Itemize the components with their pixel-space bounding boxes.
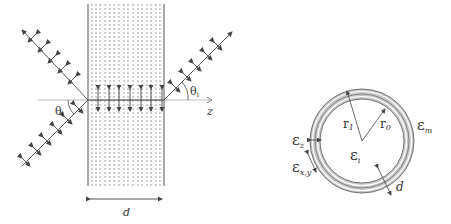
diagram-canvas: θi θi z d r1 r0 εi (0, 0, 451, 224)
transmitted-angle-arc (182, 82, 188, 100)
z-axis-label: z (206, 105, 213, 118)
shell-thickness-label: d (396, 180, 404, 194)
slab-layers (92, 4, 160, 186)
transmitted-beam (164, 32, 232, 100)
eps-z-label: εz (292, 131, 305, 150)
eps-xy-label: εx,y (292, 158, 312, 177)
incident-angle-arc (68, 100, 74, 114)
theta-incident-label: θi (55, 105, 65, 119)
shell-diagram: r1 r0 εi εm εz εx,y d (292, 89, 433, 195)
reflected-beam (22, 30, 88, 100)
thickness-label: d (123, 206, 130, 219)
eps-m-label: εm (417, 116, 433, 135)
theta-transmitted-label: θi (190, 85, 200, 99)
slab-diagram: θi θi z d (22, 4, 232, 219)
